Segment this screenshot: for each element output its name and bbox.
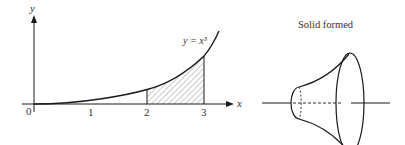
x-axis-label: x (236, 97, 242, 109)
y-axis-arrow-icon (31, 15, 37, 23)
tick-label-1: 1 (88, 106, 94, 118)
tick-label-2: 2 (144, 106, 150, 118)
diagram-canvas: y x 0 1 2 3 y = x³ Solid formed (0, 0, 405, 145)
origin-label: 0 (26, 105, 32, 117)
solid-title: Solid formed (298, 19, 354, 30)
tick-label-3: 3 (201, 106, 207, 118)
solid-top-profile (299, 54, 349, 87)
solid-right-ellipse (336, 53, 364, 145)
curve-label: y = x³ (182, 35, 208, 46)
x-axis-arrow-icon (226, 101, 234, 107)
y-axis-label: y (29, 2, 35, 14)
